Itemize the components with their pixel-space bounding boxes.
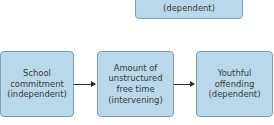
youthful-offending-box: Youthful offending (dependent) [196,51,273,117]
school-commitment-box: School commitment (independent) [0,51,74,117]
free-time-box: Amount of unstructured free time (interv… [97,51,174,117]
free-time-label: Amount of unstructured free time (interv… [108,63,162,105]
youthful-offending-label: Youthful offending (dependent) [209,68,261,100]
top-box-label: (dependent) [163,3,215,14]
top-dependent-box: (dependent) [135,0,243,19]
arrow-icon [174,84,194,85]
arrow-icon [74,84,95,85]
school-commitment-label: School commitment (independent) [7,68,66,100]
